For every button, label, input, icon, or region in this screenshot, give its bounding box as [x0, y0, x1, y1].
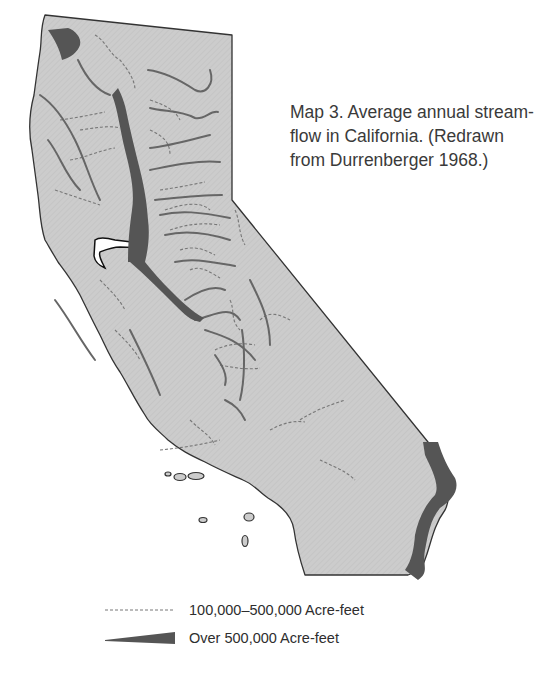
legend-item-minor-flow: 100,000–500,000 Acre-feet	[105, 598, 364, 622]
legend-label-major-flow: Over 500,000 Acre-feet	[189, 630, 339, 646]
tapered-wedge-icon	[105, 628, 175, 648]
california-landmass	[30, 15, 449, 575]
caption-line-3: from Durrenberger 1968.)	[290, 148, 550, 172]
caption-line-1: Map 3. Average annual stream-	[290, 100, 550, 124]
caption-line-2: flow in California. (Redrawn	[290, 124, 550, 148]
channel-islands	[165, 472, 254, 547]
legend-label-minor-flow: 100,000–500,000 Acre-feet	[189, 602, 364, 618]
dashed-line-icon	[105, 600, 175, 620]
legend-item-major-flow: Over 500,000 Acre-feet	[105, 626, 339, 650]
map-caption: Map 3. Average annual stream- flow in Ca…	[290, 100, 550, 172]
